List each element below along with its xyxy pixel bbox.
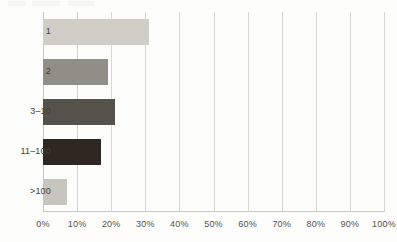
top-cropped-text-remnant [8, 1, 158, 6]
category-label: 3–10 [30, 106, 51, 116]
x-tick-label: 0% [36, 219, 49, 229]
bar-row [43, 19, 384, 45]
bar-row [43, 59, 384, 85]
bar [43, 59, 108, 85]
bars-layer [43, 12, 384, 212]
bar-row [43, 179, 384, 205]
x-tick-label: 10% [68, 219, 87, 229]
bar-row [43, 139, 384, 165]
category-label: 2 [46, 66, 51, 76]
category-label: 1 [46, 26, 51, 36]
x-tick-label: 90% [341, 219, 360, 229]
x-axis-baseline [43, 211, 385, 212]
gridline-100pct [384, 12, 385, 212]
x-tick-label: 30% [136, 219, 155, 229]
x-tick-label: 20% [102, 219, 121, 229]
bar [43, 99, 115, 125]
bar-row [43, 99, 384, 125]
category-label: 11–100 [20, 146, 51, 156]
bar [43, 19, 149, 45]
x-tick-label: 40% [170, 219, 189, 229]
x-tick-label: 60% [238, 219, 257, 229]
bar [43, 139, 101, 165]
x-tick-label: 80% [306, 219, 325, 229]
x-tick-label: 70% [272, 219, 291, 229]
plot-area [43, 12, 384, 212]
x-tick-label: 100% [372, 219, 396, 229]
x-tick-label: 50% [204, 219, 223, 229]
bar-chart-figure: 123–1011–100>100 0%10%20%30%40%50%60%70%… [0, 0, 397, 242]
category-label: >100 [30, 186, 51, 196]
